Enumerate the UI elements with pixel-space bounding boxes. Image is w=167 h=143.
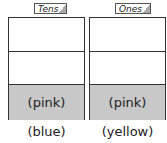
tens-cell-2 [9, 52, 84, 86]
ones-cell-1 [90, 18, 165, 52]
ones-caption: (yellow) [89, 124, 166, 139]
ones-column: (pink) [89, 17, 166, 120]
ones-cell-2 [90, 52, 165, 86]
tens-caption: (blue) [8, 124, 85, 139]
tens-cell-1 [9, 18, 84, 52]
tens-column: (pink) [8, 17, 85, 120]
ones-cell-shaded: (pink) [90, 85, 165, 120]
ones-header-label: Ones [115, 3, 151, 14]
tens-header-label: Tens [34, 3, 67, 14]
tens-cell-shaded: (pink) [9, 85, 84, 120]
